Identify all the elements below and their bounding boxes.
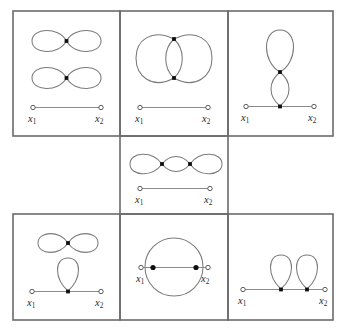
label-x2: x2 [200,273,210,286]
endpoint-x2-marker [312,104,316,108]
node-on-axis-right [305,288,309,292]
endpoint-x2-marker [206,105,210,109]
label-x1: x1 [134,194,144,207]
panel-borders [13,11,333,320]
node-top [172,37,176,41]
loop-middle [162,157,190,172]
endpoint-x1-marker [241,287,245,291]
teardrop-loop-upper [267,30,294,72]
label-x1: x1 [27,113,37,126]
endpoint-x2-marker [99,105,103,109]
endpoint-x1-marker [31,105,35,109]
crossing-node [66,241,70,245]
node-on-axis [66,290,70,294]
label-x1: x1 [26,297,36,310]
oval-left [136,35,174,83]
panel-bottom-left: x1 x2 [26,234,104,311]
node-right-junction [188,162,192,166]
label-x1: x1 [237,295,247,308]
label-x1: x1 [240,112,250,125]
node-left-junction [160,162,164,166]
label-x2: x2 [201,113,211,126]
label-x1: x1 [135,273,145,286]
teardrop-loop-left [271,255,292,289]
panel-middle-center: x1 x2 [130,154,222,207]
crossing-node-upper [65,39,69,43]
endpoint-x2-marker [206,265,210,269]
endpoint-x2-marker [99,289,103,293]
topology-grid-figure: x1 x2 x1 x2 x1 [0,0,347,333]
panel-top-middle: x1 x2 [134,35,212,127]
loop-left [130,154,162,174]
teardrop-loop-on-axis [58,258,79,291]
endpoint-x1-marker [139,265,143,269]
endpoint-x1-marker [244,104,248,108]
teardrop-loop-right [297,255,318,289]
node-on-axis-left [279,288,283,292]
endpoint-x1-marker [138,105,142,109]
label-x2: x2 [318,295,328,308]
node-bottom [172,76,176,80]
oval-right [174,35,212,83]
endpoint-x2-marker [323,287,327,291]
label-x2: x2 [94,113,104,126]
endpoint-x1-marker [138,186,142,190]
label-x2: x2 [307,112,317,125]
panel-top-right: x1 x2 [240,30,317,125]
loop-right [190,154,222,174]
figure-container: x1 x2 x1 x2 x1 [0,0,347,333]
panel-bottom-right: x1 x2 [237,255,328,308]
endpoint-x1-marker [30,289,34,293]
label-x2: x2 [94,297,104,310]
lens-loop-lower [271,72,289,106]
node-on-axis [278,105,282,109]
node-on-axis-right [193,265,198,270]
label-x2: x2 [203,194,213,207]
node-middle [278,70,282,74]
panel-bottom-middle: x1 x2 [135,238,210,296]
label-x1: x1 [134,113,144,126]
panel-top-left: x1 x2 [27,30,104,126]
crossing-node-lower [65,76,69,80]
node-on-axis-left [150,265,155,270]
endpoint-x2-marker [208,186,212,190]
